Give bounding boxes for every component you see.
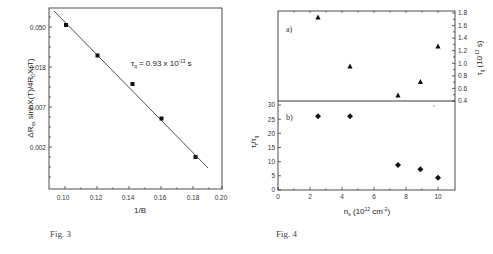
fig3-y-axis-label: ΔRxx sinhX(T)/4R0X(T) [26,58,36,138]
data-point [194,155,198,159]
x-tick-label: 2 [308,193,312,200]
fig3-y-ticks [49,17,52,177]
y-tick-label: 0.4 [458,97,467,104]
fig4-x-tick-labels: 0 2 4 6 8 10 [276,193,442,200]
x-tick-label: 0.12 [90,194,103,201]
y-tick-label: 15 [268,144,276,151]
fig4a-y-ticks [452,13,455,101]
y-tick-label: 30 [268,101,276,108]
data-point [435,175,441,181]
fig4-panel-b-label: b) [286,113,293,122]
fig3-fit-line [54,11,208,168]
fig4b-y-tick-labels: 0 5 10 15 20 25 30 [268,101,276,193]
y-tick-label: 0.6 [458,85,467,92]
fig3-x-axis-label: 1/B [134,206,146,215]
fig3-tau-annotation: τq = 0.93 x 10-13 s [131,59,191,69]
data-point [435,44,440,49]
data-point [96,54,100,58]
data-point [160,117,164,121]
x-tick-label: 0.18 [187,194,200,201]
fig4a-y-tick-labels: 0.4 0.6 0.8 1.0 1.2 1.4 1.6 1.8 [458,9,467,104]
data-point [315,15,320,20]
y-tick-label: 10 [268,158,276,165]
fig3-plot-frame [49,8,222,189]
fig4a-data-points [315,15,440,98]
data-point [347,113,353,119]
fig3-data-points [64,23,198,159]
y-tick-label: 0.002 [30,144,47,151]
data-point [418,79,423,84]
y-tick-label: 5 [271,172,275,179]
data-point [347,64,352,69]
y-tick-label: 1.4 [458,34,467,41]
fig4b-y-ticks [278,105,281,190]
fig4-chart: 0 2 4 6 8 10 ns (1012 cm-2) 0 5 10 15 20… [249,9,485,216]
x-tick-label: 0 [276,193,280,200]
fig3-x-tick-labels: 0.10 0.12 0.14 0.16 0.18 0.20 [57,194,228,201]
fig4-x-axis-label: ns (1012 cm-2) [344,206,391,217]
x-tick-label: 0.10 [57,194,70,201]
data-point [131,82,135,86]
y-tick-label: 0.050 [30,24,47,31]
y-tick-label: 25 [268,116,276,123]
x-tick-label: 0.14 [122,194,135,201]
y-tick-label: 1.6 [458,22,467,29]
y-tick-label: 1.0 [458,60,467,67]
x-tick-label: 6 [372,193,376,200]
fig4-caption: Fig. 4 [276,229,297,239]
figures-canvas: 0.10 0.12 0.14 0.16 0.18 0.20 1/B 0.050 … [0,0,493,254]
data-point [64,23,68,27]
y-tick-label: 0 [271,186,275,193]
data-point [315,113,321,119]
x-tick-label: 8 [404,193,408,200]
fig4b-y-axis-label: τt/τq [249,135,259,148]
y-tick-label: 0.8 [458,72,467,79]
fig4a-y-axis-label: τq (10-13 s) [475,40,485,75]
fig4-plot-frame [278,11,455,190]
fig3-x-ticks [65,186,222,189]
x-tick-label: 0.16 [154,194,167,201]
x-tick-label: 4 [340,193,344,200]
y-tick-label: 1.2 [458,47,467,54]
y-tick-label: 20 [268,130,276,137]
data-point [395,162,401,168]
fig3-caption: Fig. 3 [50,229,71,239]
fig4b-data-points [315,113,441,181]
fig3-chart: 0.10 0.12 0.14 0.16 0.18 0.20 1/B 0.050 … [26,8,228,215]
fig4-panel-a-label: a) [286,25,293,34]
data-point [417,166,423,172]
x-tick-label: 0.20 [215,194,228,201]
y-tick-label: 1.8 [458,9,467,16]
x-tick-label: 10 [434,193,442,200]
fig4-x-ticks [278,11,438,190]
data-point [395,92,400,97]
